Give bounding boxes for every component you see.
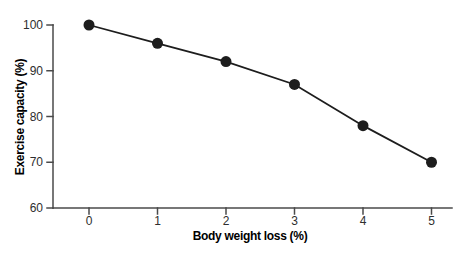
- x-axis-tick-label: 3: [291, 214, 298, 228]
- y-axis-tick-label: 60: [30, 201, 44, 215]
- x-axis-tick-label: 5: [428, 214, 435, 228]
- y-axis-tick-label: 100: [23, 18, 43, 32]
- data-point-marker: [426, 157, 437, 168]
- data-point-marker: [358, 120, 369, 131]
- exercise-capacity-line-chart: 60708090100012345 Exercise capacity (%) …: [0, 0, 463, 254]
- x-axis-tick-label: 2: [223, 214, 230, 228]
- y-axis-tick-label: 70: [30, 155, 44, 169]
- series-line: [89, 25, 432, 162]
- data-point-marker: [289, 79, 300, 90]
- y-axis-title: Exercise capacity (%): [13, 58, 27, 175]
- x-axis-tick-label: 0: [86, 214, 93, 228]
- plot-area: 60708090100012345: [23, 18, 452, 228]
- data-point-marker: [221, 56, 232, 67]
- y-axis-tick-label: 90: [30, 64, 44, 78]
- chart-figure: 60708090100012345 Exercise capacity (%) …: [0, 0, 463, 254]
- data-point-marker: [152, 38, 163, 49]
- x-axis-tick-label: 4: [360, 214, 367, 228]
- x-axis-title: Body weight loss (%): [193, 229, 308, 243]
- y-axis-tick-label: 80: [30, 110, 44, 124]
- x-axis-tick-label: 1: [154, 214, 161, 228]
- data-point-marker: [84, 20, 95, 31]
